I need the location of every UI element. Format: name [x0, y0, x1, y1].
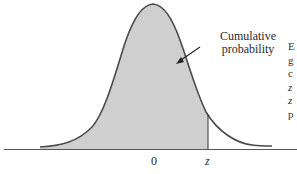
callout-line-2: probability	[222, 42, 275, 56]
side-text-line: z	[288, 81, 295, 95]
callout-label: Cumulative probability	[220, 30, 276, 56]
side-text-line: g	[288, 54, 295, 68]
normal-curve-diagram	[0, 0, 297, 174]
cumulative-shaded-area	[40, 4, 208, 149]
side-text-line: z	[288, 94, 295, 108]
axis-label-z: z	[205, 155, 210, 167]
axis-label-zero: 0	[151, 155, 157, 167]
callout-line-1: Cumulative	[220, 29, 276, 43]
side-text-line: c	[288, 67, 295, 81]
side-text-line: E	[288, 40, 295, 54]
cropped-side-text: E g c z z p	[288, 40, 295, 121]
side-text-line: p	[288, 108, 295, 122]
